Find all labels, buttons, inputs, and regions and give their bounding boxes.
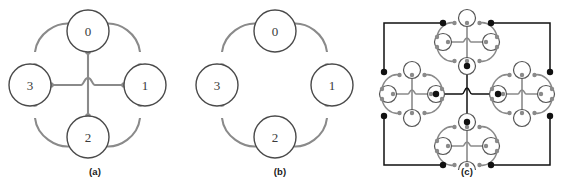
- panel-c-graph: [370, 0, 564, 170]
- outer-port-dot: [440, 20, 446, 26]
- node-label: 2: [272, 130, 279, 145]
- outer-port-dot: [381, 113, 387, 119]
- node-label: 3: [27, 78, 34, 93]
- node-label: 0: [272, 24, 279, 39]
- outer-port-dot: [464, 119, 470, 125]
- outer-port-dot: [495, 91, 501, 97]
- panel-b-graph: 0 1 2 3: [190, 0, 370, 170]
- outer-port-dot: [433, 91, 439, 97]
- node-label: 3: [214, 78, 221, 93]
- panel-c: (c): [370, 0, 564, 189]
- node-b-1[interactable]: 1: [311, 64, 353, 106]
- panel-a-graph: 0 1 2 3: [0, 0, 190, 170]
- outer-port-dot: [381, 69, 387, 75]
- outer-port-dot: [547, 69, 553, 75]
- node-label: 2: [85, 130, 92, 145]
- panel-a: 0 1 2 3 (a): [0, 0, 190, 189]
- outer-port-dot: [547, 113, 553, 119]
- node-b-0[interactable]: 0: [254, 10, 296, 52]
- figure-container: 0 1 2 3 (a): [0, 0, 564, 189]
- node-a-0[interactable]: 0: [67, 10, 109, 52]
- node-a-1[interactable]: 1: [124, 64, 166, 106]
- node-label: 0: [85, 24, 92, 39]
- panel-c-caption: (c): [370, 166, 564, 177]
- node-label: 1: [142, 78, 149, 93]
- panel-b-caption: (b): [190, 166, 370, 177]
- panel-b: 0 1 2 3 (b): [190, 0, 370, 189]
- node-b-3[interactable]: 3: [196, 64, 238, 106]
- panel-a-caption: (a): [0, 166, 190, 177]
- node-b-2[interactable]: 2: [254, 116, 296, 158]
- outer-port-dot: [488, 20, 494, 26]
- node-a-2[interactable]: 2: [67, 116, 109, 158]
- node-a-3[interactable]: 3: [9, 64, 51, 106]
- outer-port-dot: [464, 63, 470, 69]
- node-label: 1: [329, 78, 336, 93]
